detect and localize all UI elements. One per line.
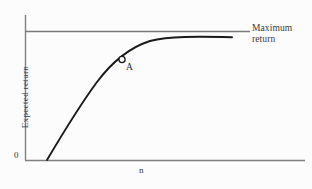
expected-return-curve — [47, 37, 232, 160]
y-axis-title: Expected return — [20, 45, 30, 149]
origin-label: 0 — [14, 150, 19, 160]
maximum-return-annotation: Maximum return — [252, 23, 292, 44]
maximum-return-line-2: return — [252, 34, 292, 45]
chart-figure: Maximum return Expected return n 0 A — [0, 0, 312, 189]
point-a-label: A — [126, 62, 133, 73]
maximum-return-line-1: Maximum — [252, 23, 292, 33]
x-axis-title: n — [139, 165, 144, 175]
point-a-marker — [119, 56, 125, 62]
